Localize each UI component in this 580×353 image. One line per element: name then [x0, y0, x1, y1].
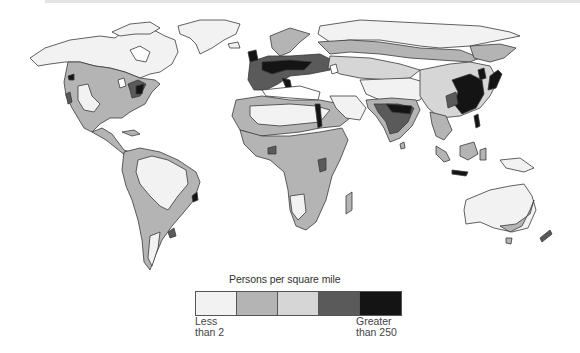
- legend-swatch-5: [360, 292, 401, 315]
- borneo-low: [460, 142, 478, 160]
- sulawesi: [480, 148, 486, 160]
- sumatra-low: [436, 146, 450, 162]
- legend-swatch-2: [237, 292, 278, 315]
- scandinavia: [270, 28, 310, 56]
- legend-title: Persons per square mile: [229, 273, 341, 285]
- central-asia-mid: [328, 56, 420, 80]
- australia-sparse: [464, 184, 536, 232]
- madagascar: [346, 192, 352, 214]
- legend-low-line2: than 2: [195, 327, 224, 338]
- tasmania: [506, 238, 512, 244]
- legend-swatch-4: [319, 292, 360, 315]
- legend-high-label: Greater than 250: [356, 316, 397, 338]
- legend-swatch-1: [196, 292, 237, 315]
- world-density-map: [0, 0, 580, 280]
- philippines-highest: [474, 114, 480, 128]
- java-highest: [452, 170, 468, 176]
- legend-high-line2: than 250: [356, 327, 397, 338]
- new-zealand: [540, 230, 552, 242]
- greenland: [178, 20, 240, 54]
- caribbean-islands: [122, 130, 140, 136]
- uk-highest: [248, 50, 258, 62]
- new-guinea: [500, 158, 534, 172]
- sri-lanka: [400, 142, 405, 149]
- legend-low-label: Less than 2: [195, 316, 224, 338]
- legend-swatch-3: [278, 292, 319, 315]
- iceland: [228, 42, 240, 48]
- legend-bar: [195, 291, 402, 316]
